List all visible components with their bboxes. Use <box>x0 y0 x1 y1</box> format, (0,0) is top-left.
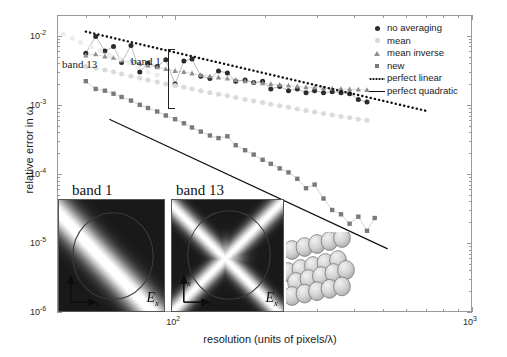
y-tick-minor-right <box>469 279 472 280</box>
y-axis-label-text: relative error in ω <box>23 107 35 194</box>
x-axis-label: resolution (units of pixels/λ) <box>120 333 420 345</box>
x-tick-minor <box>406 309 407 312</box>
y-tick-minor-right <box>469 210 472 211</box>
band-1-bracket <box>168 49 175 109</box>
legend-item-no-averaging: no averaging <box>368 22 507 35</box>
y-tick-minor <box>57 84 60 85</box>
y-tick-minor-right <box>469 254 472 255</box>
y-tick-minor-right <box>469 250 472 251</box>
y-tick-minor-right <box>469 185 472 186</box>
y-tick-minor-right <box>469 153 472 154</box>
inset-band-13-axis-x-label: x <box>187 278 191 288</box>
y-tick-minor <box>57 46 60 47</box>
y-tick-major <box>57 312 62 313</box>
x-tick-minor <box>458 309 459 312</box>
inset-band-13-axis-y-label: y <box>208 298 212 308</box>
x-tick-minor-top <box>443 15 444 18</box>
triangle-icon <box>368 51 386 56</box>
y-tick-minor <box>57 42 60 43</box>
y-tick-minor <box>57 195 60 196</box>
y-tick-minor <box>57 57 60 58</box>
x-tick-minor-top <box>129 15 130 18</box>
y-tick-minor-right <box>469 189 472 190</box>
y-tick-minor <box>57 153 60 154</box>
x-tick-minor-top <box>458 15 459 18</box>
legend-item-new: new <box>368 60 507 73</box>
y-tick-major-right <box>467 312 472 313</box>
x-tick-minor-top <box>383 15 384 18</box>
x-tick-major-top <box>472 15 473 20</box>
y-tick-minor-right <box>469 291 472 292</box>
y-tick-minor <box>57 177 60 178</box>
x-tick-minor-top <box>146 15 147 18</box>
solid-line-icon <box>368 91 386 92</box>
y-tick-minor-right <box>469 201 472 202</box>
y-tick-minor <box>57 189 60 190</box>
sphere <box>334 277 351 296</box>
inset-band-13-title: band 13 <box>176 182 224 199</box>
y-tick-major-right <box>467 105 472 106</box>
y-tick-minor-right <box>469 270 472 271</box>
y-tick-label: 10-6 <box>30 305 46 317</box>
y-tick-minor-right <box>469 126 472 127</box>
legend-label: perfect quadratic <box>386 85 458 98</box>
y-tick-minor <box>57 126 60 127</box>
sphere <box>334 232 351 247</box>
y-tick-major-right <box>467 243 472 244</box>
y-tick-minor-right <box>469 222 472 223</box>
circle-icon <box>368 38 386 43</box>
y-tick-minor <box>57 72 60 73</box>
y-tick-minor-right <box>469 264 472 265</box>
y-axis-label: relative error in ω <box>23 40 43 260</box>
y-tick-minor <box>57 108 60 109</box>
legend-item-perfect-linear: perfect linear <box>368 72 507 85</box>
y-tick-major <box>57 105 62 106</box>
annotation-band-1: band 1 <box>131 55 161 67</box>
fcc-sphere-lattice-icon <box>286 232 394 312</box>
x-tick-minor-top <box>162 15 163 18</box>
x-tick-minor-top <box>354 15 355 18</box>
y-tick-minor <box>57 63 60 64</box>
square-icon <box>368 64 386 69</box>
y-tick-minor <box>57 112 60 113</box>
y-tick-minor-right <box>469 246 472 247</box>
y-tick-minor-right <box>469 195 472 196</box>
figure-root: 10-210-310-410-510-6 102103 relative err… <box>0 0 507 357</box>
y-tick-minor-right <box>469 132 472 133</box>
legend: no averagingmeanmean inversenewperfect l… <box>368 22 507 98</box>
y-tick-minor <box>57 185 60 186</box>
legend-label: no averaging <box>386 22 442 35</box>
y-tick-minor-right <box>469 120 472 121</box>
legend-item-mean-inverse: mean inverse <box>368 47 507 60</box>
inset-band-1-axis-x-label: x <box>74 278 78 288</box>
y-tick-minor-right <box>469 108 472 109</box>
x-tick-minor <box>443 309 444 312</box>
y-tick-minor <box>57 181 60 182</box>
y-tick-minor-right <box>469 258 472 259</box>
y-tick-major <box>57 36 62 37</box>
y-tick-minor <box>57 15 60 16</box>
y-tick-minor <box>57 39 60 40</box>
x-tick-minor-top <box>109 15 110 18</box>
sphere <box>338 261 355 280</box>
inset-band-1-field-label: Ex <box>146 290 159 308</box>
x-tick-minor-top <box>426 15 427 18</box>
legend-item-mean: mean <box>368 35 507 48</box>
x-tick-label: 103 <box>463 315 477 327</box>
y-tick-label: 10-2 <box>30 29 46 41</box>
x-tick-minor-top <box>265 15 266 18</box>
x-tick-label: 102 <box>166 315 180 327</box>
y-tick-minor <box>57 141 60 142</box>
y-tick-minor-right <box>469 141 472 142</box>
inset-band-1-image: x y Ex <box>58 199 165 312</box>
x-tick-minor-top <box>86 15 87 18</box>
y-tick-minor-right <box>469 177 472 178</box>
annotation-band-13: band 13 <box>62 58 97 70</box>
dotted-line-icon <box>368 78 386 80</box>
legend-label: perfect linear <box>386 72 442 85</box>
y-tick-minor-right <box>469 181 472 182</box>
legend-label: mean inverse <box>386 47 444 60</box>
x-tick-major <box>472 307 473 312</box>
y-tick-minor <box>57 116 60 117</box>
y-tick-minor <box>57 132 60 133</box>
